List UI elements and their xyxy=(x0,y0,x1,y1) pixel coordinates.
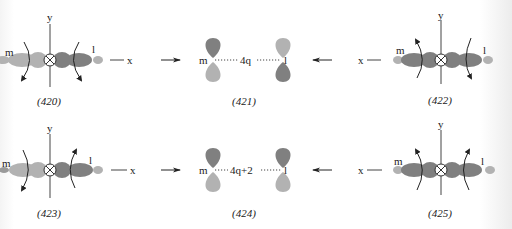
orbital-label-m: m xyxy=(199,55,208,66)
end-label-l: l xyxy=(92,44,95,55)
x-axis-label: x xyxy=(358,165,364,176)
caption-423: (423) xyxy=(37,208,61,219)
end-label-m: m xyxy=(5,47,14,58)
orbital-lobe xyxy=(483,56,493,64)
orbital-label-m: m xyxy=(199,165,208,176)
orbital-diagram xyxy=(0,0,512,229)
caption-421: (421) xyxy=(232,96,256,107)
caption-420: (420) xyxy=(37,96,61,107)
orbital-lobe xyxy=(66,53,92,67)
caption-424: (424) xyxy=(232,208,256,219)
p-orbital-upper-lobe xyxy=(276,148,291,168)
figure-page: y m l x (420) m 4q l (421) y x m l (422)… xyxy=(0,0,512,229)
orbital-lobe xyxy=(456,53,482,67)
p-orbital-lower-lobe xyxy=(276,62,291,82)
bridge-label: 4q xyxy=(240,55,251,66)
y-axis-label: y xyxy=(438,10,444,21)
orbital-lobe xyxy=(93,166,103,174)
orbital-label-l: l xyxy=(284,55,287,66)
orbital-label-l: l xyxy=(284,165,287,176)
orbital-lobe xyxy=(456,163,482,177)
end-label-m: m xyxy=(2,158,11,169)
caption-422: (422) xyxy=(428,95,452,106)
end-label-l: l xyxy=(89,155,92,166)
y-axis-label: y xyxy=(47,12,53,23)
panel-423 xyxy=(0,134,127,198)
end-label-l: l xyxy=(481,156,484,167)
panel-425 xyxy=(367,130,495,195)
x-axis-label: x xyxy=(127,55,133,66)
panel-422 xyxy=(367,20,493,84)
y-axis-label: y xyxy=(47,123,53,134)
y-axis-label: y xyxy=(438,119,444,130)
x-axis-label: x xyxy=(130,165,136,176)
panel-420 xyxy=(0,24,124,87)
caption-425: (425) xyxy=(428,208,452,219)
p-orbital-lower-lobe xyxy=(276,172,291,192)
x-axis-label: x xyxy=(358,55,364,66)
orbital-lobe xyxy=(485,166,495,174)
orbital-lobe xyxy=(93,56,103,64)
p-orbital-upper-lobe xyxy=(276,38,291,58)
end-label-m: m xyxy=(394,156,403,167)
end-label-m: m xyxy=(396,45,405,56)
bridge-label: 4q+2 xyxy=(230,165,253,176)
end-label-l: l xyxy=(483,45,486,56)
